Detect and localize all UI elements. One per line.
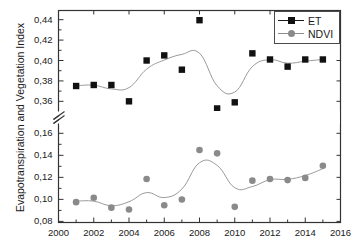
data-point-et	[179, 66, 185, 72]
y-tick-label: 0,38	[21, 75, 53, 86]
x-tick-label: 2004	[112, 227, 146, 238]
y-tick-label: 0,36	[21, 95, 53, 106]
data-point-ndvi	[143, 176, 150, 183]
data-point-ndvi	[73, 199, 80, 206]
data-point-ndvi	[196, 147, 203, 154]
data-point-et	[284, 63, 290, 69]
y-tick-label: 0,44	[21, 14, 53, 25]
data-point-ndvi	[90, 194, 97, 201]
x-tick-label: 2010	[218, 227, 252, 238]
square-marker-icon	[288, 17, 295, 24]
y-tick-label: 0,14	[21, 149, 53, 160]
y-tick-label: 0,40	[21, 55, 53, 66]
legend-symbol-et	[278, 15, 304, 27]
data-point-ndvi	[249, 177, 256, 184]
x-tick-label: 2016	[324, 227, 358, 238]
x-tick-label: 2002	[77, 227, 111, 238]
legend-item-et[interactable]: ET	[278, 14, 336, 27]
y-tick-label: 0,12	[21, 171, 53, 182]
data-point-ndvi	[179, 196, 186, 203]
data-point-ndvi	[126, 206, 133, 213]
data-point-ndvi	[231, 204, 238, 211]
data-point-et	[196, 17, 202, 23]
data-point-ndvi	[302, 175, 309, 182]
data-point-et	[73, 83, 79, 89]
data-point-et	[91, 82, 97, 88]
x-tick-label: 2000	[42, 227, 76, 238]
data-point-ndvi	[108, 204, 115, 211]
legend-label-et: ET	[304, 15, 321, 27]
x-tick-label: 2012	[253, 227, 287, 238]
data-point-et	[143, 57, 149, 63]
data-point-et	[108, 82, 114, 88]
x-tick-label: 2014	[288, 227, 322, 238]
data-point-et	[214, 105, 220, 111]
data-point-et	[249, 50, 255, 56]
series-ndvi	[73, 147, 326, 213]
data-point-et	[126, 98, 132, 104]
legend-symbol-ndvi	[278, 28, 304, 40]
y-tick-label: 0,08	[21, 215, 53, 226]
data-point-ndvi	[161, 202, 168, 209]
data-point-ndvi	[214, 150, 221, 157]
x-tick-label: 2006	[147, 227, 181, 238]
x-tick-label: 2008	[183, 227, 217, 238]
data-point-ndvi	[284, 177, 291, 184]
legend-label-ndvi: NDVI	[304, 28, 333, 40]
data-point-et	[267, 56, 273, 62]
data-point-ndvi	[320, 162, 327, 169]
y-tick-label: 0,16	[21, 127, 53, 138]
chart-figure: Evapotranspiration and Vegetation Index …	[0, 0, 359, 250]
y-tick-label: 0,10	[21, 193, 53, 204]
data-point-et	[302, 56, 308, 62]
data-point-et	[161, 52, 167, 58]
legend: ET NDVI	[274, 11, 340, 44]
data-point-ndvi	[267, 176, 274, 183]
y-tick-label: 0,42	[21, 34, 53, 45]
data-point-et	[232, 99, 238, 105]
circle-marker-icon	[288, 30, 295, 37]
data-point-et	[320, 56, 326, 62]
legend-item-ndvi[interactable]: NDVI	[278, 27, 336, 40]
